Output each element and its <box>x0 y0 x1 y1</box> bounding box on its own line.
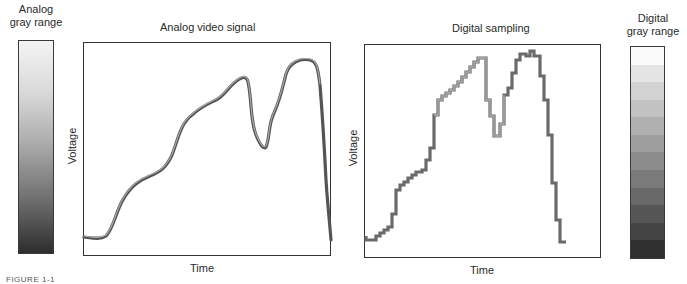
gray-level-band <box>631 135 664 153</box>
gray-level-band <box>631 117 664 135</box>
digital-gray-range-bar <box>630 46 665 259</box>
digital-signal-steps <box>366 51 566 242</box>
gray-level-band <box>631 65 664 83</box>
digital-gray-range-label: Digital gray range <box>622 12 684 38</box>
digital-x-axis-label: Time <box>470 264 494 276</box>
gray-level-band <box>631 223 664 241</box>
digital-label-line1: Digital <box>622 12 684 25</box>
gray-level-band <box>631 82 664 100</box>
gray-level-band <box>631 100 664 118</box>
figure-caption: FIGURE 1-1 <box>6 275 55 284</box>
gray-level-band <box>631 188 664 206</box>
digital-label-line2: gray range <box>622 25 684 38</box>
gray-level-band <box>631 47 664 65</box>
gray-level-band <box>631 170 664 188</box>
gray-level-band <box>631 152 664 170</box>
gray-level-band <box>631 205 664 223</box>
gray-level-band <box>631 240 664 258</box>
